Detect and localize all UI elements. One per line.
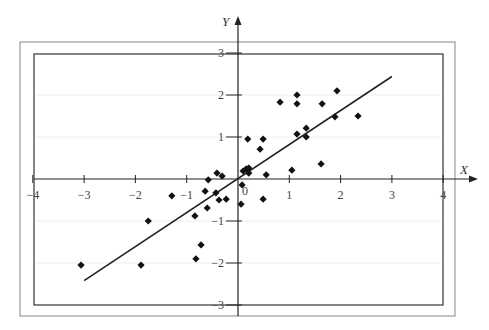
x-axis-label: X <box>459 162 469 177</box>
data-point <box>215 196 222 203</box>
data-point <box>333 87 340 94</box>
data-point <box>293 91 300 98</box>
data-point <box>168 192 175 199</box>
x-tick-label: −2 <box>129 188 142 202</box>
y-tick-label: −1 <box>211 214 224 228</box>
data-point <box>197 241 204 248</box>
data-point <box>192 255 199 262</box>
data-point <box>293 100 300 107</box>
data-point <box>303 125 310 132</box>
data-point <box>331 113 338 120</box>
y-tick-label: −3 <box>211 298 224 312</box>
y-axis-arrow-icon <box>235 16 242 25</box>
x-tick-label: 3 <box>389 188 395 202</box>
data-point <box>276 99 283 106</box>
data-point <box>205 176 212 183</box>
y-axis-label: Y <box>222 14 231 29</box>
x-tick-label: −3 <box>78 188 91 202</box>
data-point <box>202 188 209 195</box>
y-tick-label: 1 <box>218 130 224 144</box>
data-point <box>145 217 152 224</box>
x-tick-label: 1 <box>286 188 292 202</box>
axes: X Y 0 <box>34 14 478 316</box>
x-tick-label: −4 <box>26 188 39 202</box>
y-tick-label: 3 <box>218 46 224 60</box>
data-point <box>256 146 263 153</box>
data-point <box>288 167 295 174</box>
data-point <box>354 112 361 119</box>
data-point <box>263 171 270 178</box>
scatter-chart: X Y 0 −4−3−2−11234−3−2−1123 <box>0 0 489 330</box>
data-point <box>191 212 198 219</box>
x-tick-label: 4 <box>440 188 446 202</box>
data-point <box>318 160 325 167</box>
data-point <box>223 196 230 203</box>
data-points <box>77 87 361 269</box>
data-point <box>319 100 326 107</box>
y-tick-label: 2 <box>218 88 224 102</box>
y-tick-label: −2 <box>211 256 224 270</box>
x-axis-arrow-icon <box>469 176 478 183</box>
x-tick-label: −1 <box>180 188 193 202</box>
data-point <box>260 196 267 203</box>
x-tick-label: 2 <box>338 188 344 202</box>
data-point <box>204 204 211 211</box>
